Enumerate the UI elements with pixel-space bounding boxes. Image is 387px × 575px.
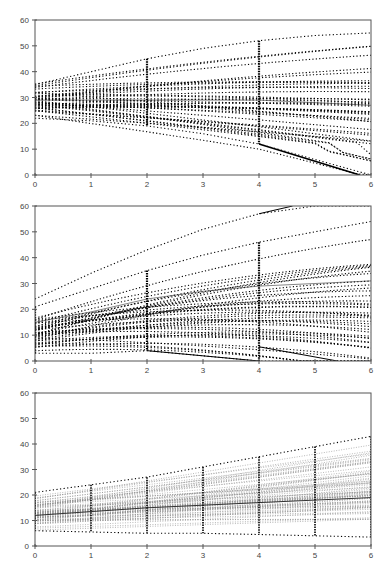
- trajectory-line: [35, 271, 371, 335]
- y-tick-label: 10: [20, 517, 29, 526]
- trajectory-line: [35, 96, 371, 103]
- trajectory-line: [35, 72, 371, 97]
- y-tick-label: 0: [25, 542, 30, 551]
- y-tick-label: 10: [20, 331, 29, 340]
- trajectory-line: [35, 83, 371, 96]
- trajectory-line: [35, 240, 371, 320]
- x-tick-label: 5: [313, 180, 318, 189]
- trajectory-line: [35, 115, 371, 141]
- x-tick-label: 0: [33, 180, 38, 189]
- plot-area: [35, 206, 371, 361]
- low-segment: [259, 347, 337, 361]
- x-tick-label: 1: [89, 366, 94, 375]
- series-lower-envelope: [35, 531, 371, 537]
- trajectory-line: [35, 110, 371, 135]
- x-tick-label: 2: [145, 180, 150, 189]
- x-tick-label: 2: [145, 366, 150, 375]
- y-tick-label: 50: [20, 228, 29, 237]
- y-tick-label: 30: [20, 94, 29, 103]
- y-tick-label: 20: [20, 119, 29, 128]
- x-tick-label: 5: [313, 366, 318, 375]
- y-tick-label: 0: [25, 357, 30, 366]
- x-tick-label: 6: [369, 180, 374, 189]
- trajectory-line: [35, 46, 371, 85]
- x-tick-label: 4: [257, 551, 262, 560]
- x-tick-label: 3: [201, 551, 206, 560]
- outlier-segment: [259, 206, 293, 214]
- chart-panel-1: 0102030405060012345601020304050600123456…: [0, 0, 387, 575]
- x-tick-label: 5: [313, 551, 318, 560]
- chart-canvas: 0102030405060012345601020304050600123456…: [0, 0, 387, 575]
- x-tick-label: 1: [89, 551, 94, 560]
- y-tick-label: 50: [20, 415, 29, 424]
- series-upper-envelope: [35, 222, 371, 307]
- y-tick-label: 20: [20, 305, 29, 314]
- y-tick-label: 60: [20, 202, 29, 211]
- trajectory-line: [35, 274, 371, 327]
- x-tick-label: 6: [369, 366, 374, 375]
- x-tick-label: 3: [201, 180, 206, 189]
- y-tick-label: 0: [25, 171, 30, 180]
- y-tick-label: 20: [20, 491, 29, 500]
- series-lower-envelope: [35, 118, 371, 175]
- trajectory-line: [35, 288, 371, 339]
- y-tick-label: 30: [20, 466, 29, 475]
- y-tick-label: 30: [20, 280, 29, 289]
- y-tick-label: 60: [20, 389, 29, 398]
- chart-3: 01020304050600123456: [20, 389, 374, 560]
- x-tick-label: 0: [33, 551, 38, 560]
- plot-area: [35, 436, 371, 537]
- trajectory-line: [35, 111, 371, 133]
- x-tick-label: 4: [257, 366, 262, 375]
- y-tick-label: 60: [20, 16, 29, 25]
- series-upper-envelope: [35, 33, 371, 85]
- chart-1: 01020304050600123456: [20, 16, 374, 189]
- x-tick-label: 3: [201, 366, 206, 375]
- x-tick-label: 4: [257, 180, 262, 189]
- trajectory-line: [35, 334, 371, 348]
- x-tick-label: 2: [145, 551, 150, 560]
- y-tick-label: 40: [20, 440, 29, 449]
- collapse-line: [259, 144, 360, 175]
- plot-frame: [35, 20, 371, 175]
- x-tick-label: 1: [89, 180, 94, 189]
- x-tick-label: 0: [33, 366, 38, 375]
- y-tick-label: 10: [20, 145, 29, 154]
- trajectory-line: [35, 46, 371, 84]
- trajectory-line: [35, 93, 371, 122]
- trajectory-line: [35, 315, 371, 336]
- y-tick-label: 40: [20, 68, 29, 77]
- y-tick-label: 40: [20, 254, 29, 263]
- chart-2: 01020304050600123456: [20, 202, 374, 375]
- x-tick-label: 6: [369, 551, 374, 560]
- plot-area: [35, 33, 371, 175]
- y-tick-label: 50: [20, 42, 29, 51]
- trajectory-line: [35, 115, 371, 175]
- series-upper-outlier: [35, 206, 371, 299]
